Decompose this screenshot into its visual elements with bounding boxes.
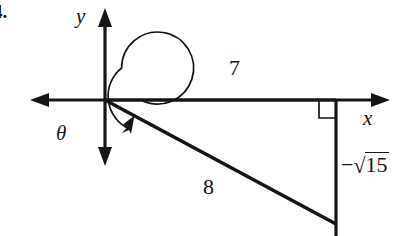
angle-sweep-arc [108,32,194,129]
right-angle-marker-icon [319,100,336,118]
triangle-hypotenuse-terminal-ray [105,100,336,224]
trig-diagram-figure: 4. y x θ 7 8 −√15 [0,0,396,236]
x-axis-label: x [363,108,372,129]
minus-sign: − [341,152,353,177]
radical-expression: √15 [353,152,388,176]
adjacent-side-length-label: 7 [229,57,240,79]
radicand-value: 15 [365,152,389,176]
opposite-side-length-label: −√15 [341,152,389,176]
angle-sweep-arrowhead [122,116,135,135]
problem-number: 4. [0,2,7,21]
radical-sign-icon: √ [353,155,365,177]
diagram-canvas [0,0,396,236]
hypotenuse-length-label: 8 [203,176,214,198]
angle-label-theta: θ [56,123,66,144]
y-axis-label: y [76,6,85,27]
